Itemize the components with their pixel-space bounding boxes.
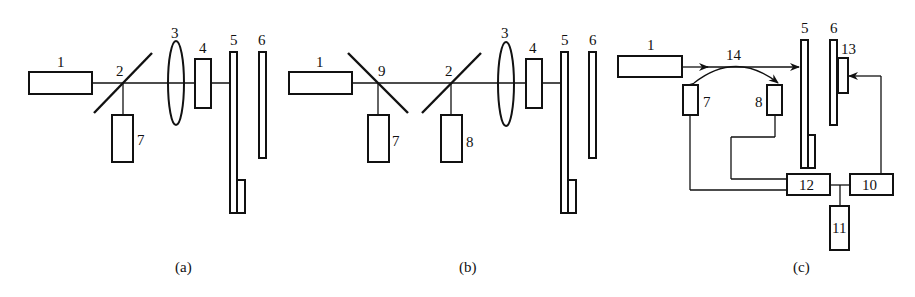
detector-8 — [441, 115, 462, 162]
label-7: 7 — [703, 94, 711, 110]
label-5: 5 — [230, 32, 238, 48]
label-11: 11 — [832, 220, 846, 236]
label-3: 3 — [171, 25, 179, 41]
label-14: 14 — [726, 47, 742, 63]
label-6: 6 — [589, 32, 597, 48]
panel-b: 1 9 7 2 8 3 4 5 6 (b) — [289, 25, 597, 276]
laser-source-1 — [289, 72, 352, 94]
label-2: 2 — [445, 63, 453, 79]
detector-7 — [112, 115, 133, 162]
label-8: 8 — [755, 94, 763, 110]
label-8: 8 — [466, 134, 474, 150]
plate-5-mount — [237, 180, 245, 213]
caption-a: (a) — [175, 259, 192, 276]
plate-5-mount — [568, 180, 576, 213]
plate-6 — [259, 52, 266, 158]
label-1: 1 — [316, 54, 324, 70]
caption-b: (b) — [459, 259, 477, 276]
label-4: 4 — [199, 40, 207, 56]
plate-5 — [230, 52, 237, 213]
optical-setup-diagram: 1 2 7 3 4 5 6 (a) 1 9 7 2 8 3 4 — [0, 0, 915, 297]
plate-6 — [830, 40, 837, 125]
beam-arc-14 — [694, 67, 778, 84]
plate-5 — [561, 52, 568, 213]
label-4: 4 — [529, 40, 537, 56]
caption-c: (c) — [793, 259, 810, 276]
plate-5 — [801, 40, 808, 168]
panel-a: 1 2 7 3 4 5 6 (a) — [29, 25, 266, 276]
label-7: 7 — [137, 132, 145, 148]
laser-source-1 — [29, 72, 92, 94]
detector-7 — [683, 85, 698, 115]
lens-3 — [498, 42, 514, 126]
label-3: 3 — [501, 25, 509, 41]
label-1: 1 — [57, 54, 65, 70]
label-13: 13 — [841, 41, 856, 57]
label-10: 10 — [862, 177, 877, 193]
detector-8 — [767, 85, 782, 115]
label-9: 9 — [378, 63, 386, 79]
label-12: 12 — [799, 177, 814, 193]
label-1: 1 — [647, 37, 655, 53]
label-5: 5 — [801, 20, 809, 36]
plate-6 — [589, 52, 596, 158]
label-2: 2 — [116, 63, 124, 79]
label-6: 6 — [830, 20, 838, 36]
element-4 — [195, 59, 211, 108]
laser-source-1 — [618, 56, 682, 77]
label-7: 7 — [392, 133, 400, 149]
panel-c: 1 14 7 8 5 6 13 12 10 11 (c) — [618, 20, 893, 276]
label-5: 5 — [561, 32, 569, 48]
detector-7 — [368, 115, 389, 162]
element-13 — [838, 58, 848, 93]
element-4 — [526, 59, 542, 108]
plate-5-mount — [808, 135, 815, 168]
label-6: 6 — [258, 32, 266, 48]
